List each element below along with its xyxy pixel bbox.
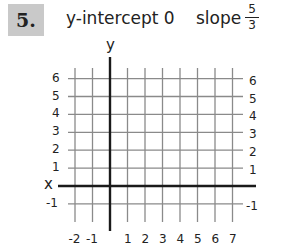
x-axis-label: x xyxy=(44,177,53,192)
x-tick-label: 4 xyxy=(177,233,185,245)
y-axis-label: y xyxy=(106,38,115,53)
x-tick-label: 5 xyxy=(194,233,202,245)
y-tick-label-left: 5 xyxy=(52,90,60,102)
x-tick-label: 7 xyxy=(229,233,237,245)
y-tick-label-left: 2 xyxy=(52,143,60,155)
y-tick-label-left: 3 xyxy=(52,125,60,137)
y-tick-label-right: 5 xyxy=(249,93,257,105)
x-tick-label: 3 xyxy=(159,233,167,245)
y-tick-label-left: 1 xyxy=(52,161,60,173)
x-tick-label: 6 xyxy=(212,233,220,245)
y-tick-label-right: 6 xyxy=(249,75,257,87)
y-tick-label-right: -1 xyxy=(246,200,258,212)
y-tick-label-right: 4 xyxy=(249,110,257,122)
y-tick-label-right: 1 xyxy=(249,164,257,176)
x-tick-label: 2 xyxy=(142,233,150,245)
y-tick-label-right: 3 xyxy=(249,128,257,140)
x-tick-label: 1 xyxy=(124,233,132,245)
coordinate-grid xyxy=(0,0,281,249)
y-tick-label-left: 4 xyxy=(52,107,60,119)
y-tick-label-right: 2 xyxy=(249,146,257,158)
x-tick-label: -2 xyxy=(69,233,81,245)
y-tick-label-left: 6 xyxy=(52,72,60,84)
y-tick-label-left: -1 xyxy=(46,197,58,209)
x-tick-label: -1 xyxy=(86,233,98,245)
